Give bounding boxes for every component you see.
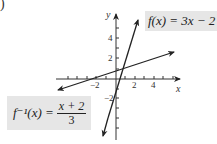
line-finv-tail — [58, 71, 116, 90]
tick-y-4: 4 — [108, 33, 113, 43]
f-equation-text: f(x) = 3x − 2 — [148, 13, 215, 28]
f-inverse-lhs: f⁻¹(x) = — [13, 105, 54, 121]
f-inverse-equation-label: f⁻¹(x) = x + 2 3 — [7, 96, 91, 130]
tick-x-neg2: −2 — [90, 80, 100, 90]
f-equation-label: f(x) = 3x − 2 — [145, 11, 217, 31]
tick-y-2: 2 — [108, 53, 113, 63]
fraction-denominator: 3 — [69, 114, 75, 127]
tick-x-4: 4 — [151, 80, 156, 90]
x-axis-label: x — [175, 83, 181, 94]
y-axis-label: y — [105, 9, 111, 20]
tick-x-2: 2 — [132, 80, 137, 90]
line-f-tail — [103, 118, 108, 136]
fraction-numerator: x + 2 — [57, 100, 86, 114]
tick-y-neg2: −2 — [104, 93, 114, 103]
fraction: x + 2 3 — [57, 100, 86, 127]
